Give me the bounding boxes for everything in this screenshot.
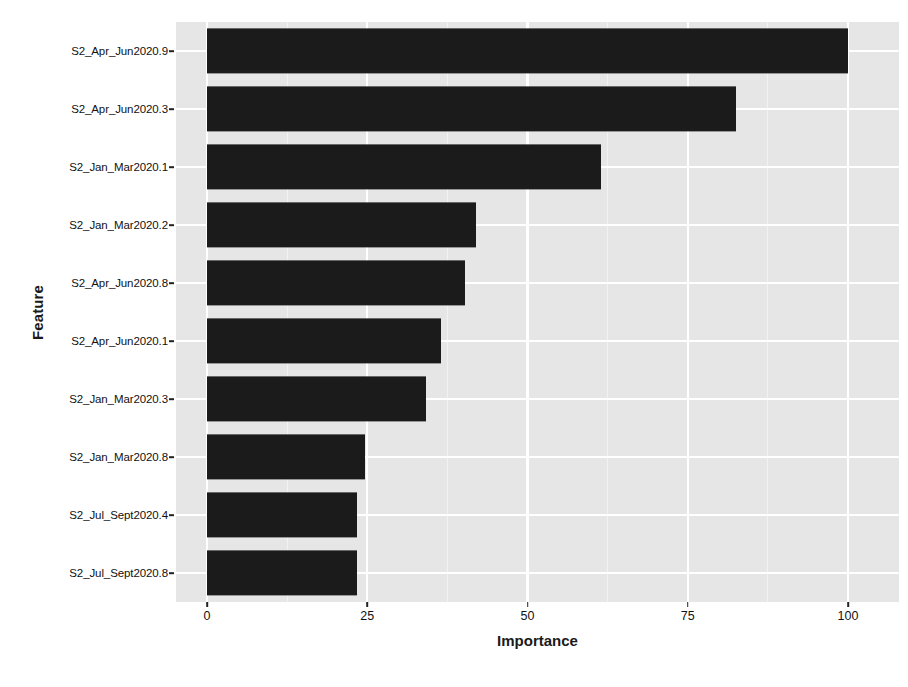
y-axis-tick-mark [169, 340, 174, 342]
y-axis-tick-label: S2_Jul_Sept2020.8 [69, 567, 168, 579]
y-axis-tick-mark [169, 456, 174, 458]
x-axis-tick-label: 75 [681, 609, 695, 623]
x-axis-tick-mark [527, 602, 529, 607]
x-axis-tick-label: 0 [204, 609, 211, 623]
y-axis-tick-label: S2_Jul_Sept2020.4 [69, 509, 168, 521]
y-axis-tick-label: S2_Jan_Mar2020.2 [69, 219, 168, 231]
y-axis-title-text: Feature [29, 285, 46, 340]
y-axis-tick-label: S2_Jan_Mar2020.3 [69, 393, 168, 405]
y-axis-tick-label: S2_Jan_Mar2020.1 [69, 161, 168, 173]
y-axis-tick-label: S2_Apr_Jun2020.9 [71, 45, 168, 57]
y-axis-tick-mark [169, 166, 174, 168]
bar [207, 434, 365, 479]
y-axis-tick-mark [169, 572, 174, 574]
bar [207, 144, 601, 189]
x-axis-title: Importance [176, 632, 899, 649]
x-axis-tick-mark [206, 602, 208, 607]
y-axis-tick-label: S2_Apr_Jun2020.1 [71, 335, 168, 347]
bar [207, 260, 465, 305]
y-axis-tick-mark [169, 514, 174, 516]
y-axis-tick-labels: S2_Apr_Jun2020.9S2_Apr_Jun2020.3S2_Jan_M… [46, 22, 168, 602]
bar [207, 376, 426, 421]
bar [207, 28, 848, 73]
x-axis-tick-label: 50 [521, 609, 535, 623]
y-axis-tick-mark [169, 108, 174, 110]
bar [207, 550, 357, 595]
plot-panel [176, 22, 899, 602]
y-axis-tick-mark [169, 398, 174, 400]
y-axis-tick-mark [169, 224, 174, 226]
importance-bar-chart: Feature S2_Apr_Jun2020.9S2_Apr_Jun2020.3… [0, 0, 908, 687]
y-axis-tick-label: S2_Apr_Jun2020.3 [71, 103, 168, 115]
x-axis-tick-mark [366, 602, 368, 607]
bar [207, 202, 476, 247]
y-axis-tick-label: S2_Apr_Jun2020.8 [71, 277, 168, 289]
x-axis-tick-label: 25 [360, 609, 374, 623]
x-axis-tick-label: 100 [838, 609, 859, 623]
x-axis: 0255075100 [176, 602, 899, 632]
y-axis-tick-mark [169, 282, 174, 284]
bar [207, 492, 357, 537]
x-axis-tick-mark [847, 602, 849, 607]
x-axis-tick-mark [687, 602, 689, 607]
bar [207, 86, 736, 131]
y-axis-tick-label: S2_Jan_Mar2020.8 [69, 451, 168, 463]
bar [207, 318, 441, 363]
y-axis-tick-mark [169, 50, 174, 52]
